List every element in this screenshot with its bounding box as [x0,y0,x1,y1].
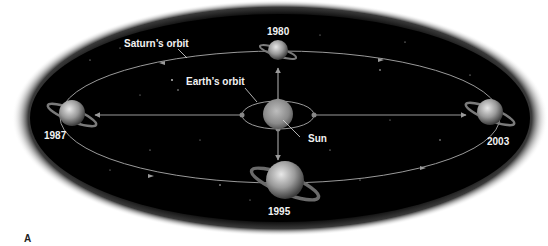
sun-label: Sun [308,134,327,144]
year-1987-label: 1987 [44,131,66,141]
saturn-orbit-label: Saturn’s orbit [124,39,189,49]
sun [263,99,293,129]
panel-label: A [24,233,31,244]
earth-orbit-label: Earth’s orbit [186,77,245,87]
year-1995-label: 1995 [268,207,290,217]
saturn-orbit-diagram: Saturn’s orbit Earth’s orbit Sun 1980 19… [0,0,548,246]
year-2003-label: 2003 [487,137,509,147]
year-1980-label: 1980 [267,27,289,37]
